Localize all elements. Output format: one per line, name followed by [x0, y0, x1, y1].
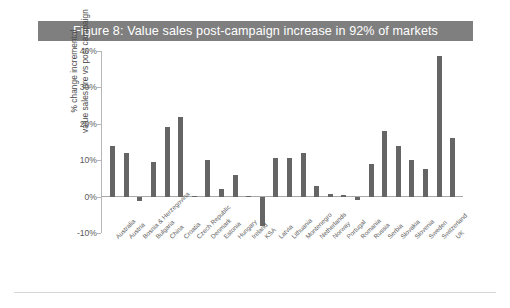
bar	[328, 194, 333, 197]
y-tick-label: 20%	[63, 119, 97, 129]
bar	[450, 138, 455, 196]
y-axis-title-line2: value sales pre vs post campaign	[80, 0, 91, 161]
y-tick-label-wrap: 0%	[61, 197, 97, 198]
y-tick-label-wrap: 10%	[61, 160, 97, 161]
y-tick-label: 30%	[63, 82, 97, 92]
y-tick-label-wrap: 40%	[61, 51, 97, 52]
bar	[124, 153, 129, 197]
bar	[396, 146, 401, 197]
y-tick-label-wrap: 30%	[61, 87, 97, 88]
x-axis-category-labels: AustraliaAustriaBosnia & HerzegovinaBulg…	[101, 199, 463, 289]
y-tick-label-wrap: 20%	[61, 124, 97, 125]
bar	[301, 153, 306, 197]
figure-container: Figure 8: Value sales post-campaign incr…	[0, 0, 510, 308]
bar	[151, 162, 156, 197]
y-tick-label: 0%	[63, 192, 97, 202]
y-tick-label-wrap: -10%	[61, 233, 97, 234]
bar	[437, 56, 442, 196]
bar	[165, 127, 170, 196]
bar	[110, 146, 115, 197]
footer-divider	[14, 292, 496, 293]
bar	[369, 164, 374, 197]
bar	[423, 169, 428, 196]
bar	[219, 189, 224, 196]
bar	[314, 186, 319, 197]
x-axis-label: UK	[454, 229, 465, 240]
bar	[192, 196, 197, 197]
bar	[409, 160, 414, 196]
y-tick-label: 40%	[63, 46, 97, 56]
y-axis-title-line1: % change incremental	[69, 0, 80, 161]
bar	[246, 196, 251, 197]
bar	[341, 195, 346, 197]
bar	[287, 158, 292, 196]
y-axis-title: % change incremental value sales pre vs …	[69, 0, 91, 161]
y-tick-label: 10%	[63, 155, 97, 165]
y-tick-label: -10%	[63, 228, 97, 238]
bar	[178, 117, 183, 197]
x-axis-label: Latvia	[277, 223, 294, 240]
bar	[382, 131, 387, 197]
bar	[273, 158, 278, 196]
bar	[233, 175, 238, 197]
figure-title: Figure 8: Value sales post-campaign incr…	[38, 21, 473, 41]
bar	[205, 160, 210, 196]
